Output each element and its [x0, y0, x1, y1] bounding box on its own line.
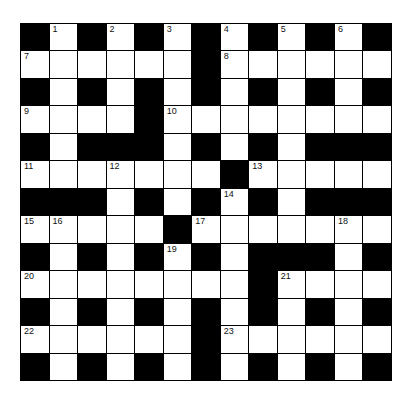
- grid-cell[interactable]: 12: [107, 161, 135, 187]
- grid-cell[interactable]: [335, 79, 363, 105]
- grid-cell[interactable]: [335, 354, 363, 380]
- grid-cell[interactable]: [306, 51, 334, 77]
- grid-cell[interactable]: [192, 106, 220, 132]
- grid-cell[interactable]: 7: [21, 51, 49, 77]
- grid-cell[interactable]: [335, 326, 363, 352]
- grid-cell[interactable]: [306, 106, 334, 132]
- grid-cell[interactable]: [78, 271, 106, 297]
- grid-cell[interactable]: [107, 106, 135, 132]
- grid-cell[interactable]: [221, 299, 249, 325]
- grid-cell[interactable]: [164, 189, 192, 215]
- grid-cell[interactable]: [50, 161, 78, 187]
- grid-cell[interactable]: [50, 51, 78, 77]
- grid-cell[interactable]: [363, 271, 391, 297]
- grid-cell[interactable]: [221, 354, 249, 380]
- grid-cell[interactable]: [278, 134, 306, 160]
- grid-cell[interactable]: [164, 271, 192, 297]
- grid-cell[interactable]: [278, 326, 306, 352]
- grid-cell[interactable]: [249, 106, 277, 132]
- grid-cell[interactable]: [278, 354, 306, 380]
- grid-cell[interactable]: 2: [107, 24, 135, 50]
- grid-cell[interactable]: [221, 216, 249, 242]
- grid-cell[interactable]: [78, 51, 106, 77]
- grid-cell[interactable]: [135, 326, 163, 352]
- grid-cell[interactable]: [78, 161, 106, 187]
- grid-cell[interactable]: [249, 216, 277, 242]
- grid-cell[interactable]: 20: [21, 271, 49, 297]
- grid-cell[interactable]: [335, 271, 363, 297]
- grid-cell[interactable]: [50, 354, 78, 380]
- grid-cell[interactable]: [363, 326, 391, 352]
- grid-cell[interactable]: [249, 51, 277, 77]
- grid-cell[interactable]: [221, 134, 249, 160]
- grid-cell[interactable]: 11: [21, 161, 49, 187]
- grid-cell[interactable]: 5: [278, 24, 306, 50]
- grid-cell[interactable]: [107, 354, 135, 380]
- grid-cell[interactable]: [164, 354, 192, 380]
- grid-cell[interactable]: [135, 161, 163, 187]
- grid-cell[interactable]: 9: [21, 106, 49, 132]
- grid-cell[interactable]: [221, 244, 249, 270]
- grid-cell[interactable]: [107, 79, 135, 105]
- grid-cell[interactable]: [335, 299, 363, 325]
- grid-cell[interactable]: [306, 271, 334, 297]
- grid-cell[interactable]: [278, 51, 306, 77]
- grid-cell[interactable]: 15: [21, 216, 49, 242]
- grid-cell[interactable]: [278, 161, 306, 187]
- grid-cell[interactable]: 14: [221, 189, 249, 215]
- grid-cell[interactable]: [221, 79, 249, 105]
- grid-cell[interactable]: [192, 271, 220, 297]
- grid-cell[interactable]: [50, 134, 78, 160]
- grid-cell[interactable]: 18: [335, 216, 363, 242]
- grid-cell[interactable]: [50, 244, 78, 270]
- grid-cell[interactable]: [107, 299, 135, 325]
- grid-cell[interactable]: 16: [50, 216, 78, 242]
- grid-cell[interactable]: [50, 326, 78, 352]
- grid-cell[interactable]: [107, 51, 135, 77]
- grid-cell[interactable]: [164, 134, 192, 160]
- grid-cell[interactable]: [50, 299, 78, 325]
- grid-cell[interactable]: [278, 106, 306, 132]
- grid-cell[interactable]: [164, 326, 192, 352]
- grid-cell[interactable]: [335, 244, 363, 270]
- grid-cell[interactable]: [363, 106, 391, 132]
- grid-cell[interactable]: 13: [249, 161, 277, 187]
- grid-cell[interactable]: [107, 271, 135, 297]
- grid-cell[interactable]: [278, 216, 306, 242]
- grid-cell[interactable]: [135, 216, 163, 242]
- grid-cell[interactable]: [107, 244, 135, 270]
- grid-cell[interactable]: [278, 79, 306, 105]
- grid-cell[interactable]: 6: [335, 24, 363, 50]
- grid-cell[interactable]: [135, 51, 163, 77]
- grid-cell[interactable]: [221, 106, 249, 132]
- grid-cell[interactable]: [278, 299, 306, 325]
- grid-cell[interactable]: 17: [192, 216, 220, 242]
- grid-cell[interactable]: [107, 216, 135, 242]
- grid-cell[interactable]: [306, 326, 334, 352]
- grid-cell[interactable]: [50, 106, 78, 132]
- grid-cell[interactable]: [192, 161, 220, 187]
- grid-cell[interactable]: [306, 216, 334, 242]
- grid-cell[interactable]: [135, 271, 163, 297]
- grid-cell[interactable]: 19: [164, 244, 192, 270]
- grid-cell[interactable]: [363, 161, 391, 187]
- grid-cell[interactable]: 4: [221, 24, 249, 50]
- grid-cell[interactable]: [164, 79, 192, 105]
- grid-cell[interactable]: [107, 189, 135, 215]
- grid-cell[interactable]: [335, 51, 363, 77]
- grid-cell[interactable]: 1: [50, 24, 78, 50]
- grid-cell[interactable]: [164, 299, 192, 325]
- grid-cell[interactable]: [249, 326, 277, 352]
- grid-cell[interactable]: [164, 51, 192, 77]
- grid-cell[interactable]: 3: [164, 24, 192, 50]
- grid-cell[interactable]: [335, 106, 363, 132]
- grid-cell[interactable]: 21: [278, 271, 306, 297]
- grid-cell[interactable]: 23: [221, 326, 249, 352]
- grid-cell[interactable]: [164, 161, 192, 187]
- grid-cell[interactable]: [335, 161, 363, 187]
- grid-cell[interactable]: [221, 271, 249, 297]
- grid-cell[interactable]: 8: [221, 51, 249, 77]
- grid-cell[interactable]: [78, 216, 106, 242]
- grid-cell[interactable]: [50, 79, 78, 105]
- grid-cell[interactable]: [306, 161, 334, 187]
